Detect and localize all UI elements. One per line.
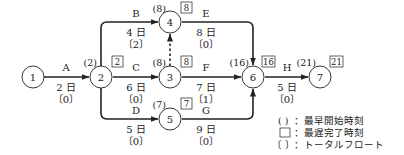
node-5-earliest-start: (7) — [153, 99, 166, 110]
activity-H-duration: 5 日 — [277, 82, 297, 93]
node-5-latest-finish: 7 — [184, 99, 189, 109]
node-6-label: 6 — [250, 72, 256, 83]
node-3-earliest-start: (8) — [153, 57, 166, 68]
node-2-earliest-start: (2) — [84, 57, 97, 68]
activity-A-name: A — [61, 62, 70, 73]
activity-C-name: C — [132, 62, 140, 73]
arrow-diagram: 1 2 3 4 5 6 7 (2) (8) (8) (7) (16) (21) … — [0, 0, 404, 155]
activity-F-name: F — [203, 62, 210, 73]
activity-C-float: 〔0〕 — [123, 94, 149, 105]
legend-earliest-start-symbol: ( ) — [278, 115, 288, 126]
legend: ( ) ：最早開始時刻 ：最遅完了時刻 〔 〕 ：トータルフロート — [272, 115, 384, 150]
node-5-label: 5 — [167, 114, 173, 125]
activity-F-duration: 7 日 — [196, 82, 216, 93]
node-2-label: 2 — [98, 72, 104, 83]
legend-earliest-start-text: ：最早開始時刻 — [294, 115, 364, 126]
activity-D-float: 〔0〕 — [123, 136, 149, 147]
legend-total-float-text: ：トータルフロート — [294, 139, 384, 150]
node-4-earliest-start: (8) — [153, 3, 166, 14]
node-3-latest-finish: 8 — [184, 57, 189, 67]
legend-total-float-symbol: 〔 〕 — [272, 139, 295, 150]
node-7-latest-finish: 21 — [331, 57, 342, 67]
node-6-latest-finish: 16 — [263, 57, 274, 67]
node-3-label: 3 — [167, 72, 173, 83]
legend-latest-finish-symbol-box — [280, 128, 290, 137]
activity-G-duration: 9 日 — [196, 124, 216, 135]
node-7-label: 7 — [317, 72, 323, 83]
activity-D-name: D — [132, 105, 140, 116]
activity-E-name: E — [202, 8, 209, 19]
activity-A-duration: 2 日 — [56, 82, 76, 93]
activity-H-name: H — [283, 62, 292, 73]
node-2-latest-finish: 2 — [115, 57, 120, 67]
activity-E-float: 〔0〕 — [193, 39, 219, 50]
activity-B-name: B — [132, 8, 139, 19]
activity-C-duration: 6 日 — [126, 82, 146, 93]
activity-B-float: 〔2〕 — [123, 39, 149, 50]
activity-E-duration: 8 日 — [196, 27, 216, 38]
node-4-latest-finish: 8 — [184, 3, 189, 13]
node-7-earliest-start: (21) — [296, 57, 316, 68]
activity-A-float: 〔0〕 — [53, 94, 79, 105]
node-6-earliest-start: (16) — [229, 57, 249, 68]
activity-G-name: G — [202, 105, 210, 116]
node-4-label: 4 — [167, 17, 173, 28]
activity-F-float: 〔1〕 — [193, 94, 219, 105]
activity-G-float: 〔0〕 — [193, 136, 219, 147]
activity-B-duration: 4 日 — [126, 27, 146, 38]
activity-H-float: 〔0〕 — [274, 94, 300, 105]
node-1-label: 1 — [30, 72, 36, 83]
legend-latest-finish-text: ：最遅完了時刻 — [294, 127, 364, 138]
activity-D-duration: 5 日 — [126, 124, 146, 135]
